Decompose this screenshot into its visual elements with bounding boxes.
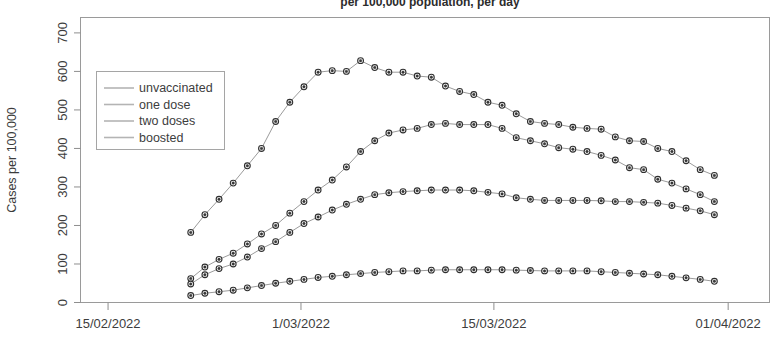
data-point-core [501, 193, 504, 196]
data-point-core [642, 201, 645, 204]
data-point-core [303, 278, 306, 281]
data-point-core [232, 252, 235, 255]
data-point-core [685, 207, 688, 210]
data-point-core [572, 270, 575, 273]
series-path [191, 123, 715, 278]
data-point-core [402, 190, 405, 193]
data-point-core [260, 233, 263, 236]
data-point-core [359, 150, 362, 153]
data-point-core [359, 59, 362, 62]
data-point-core [232, 263, 235, 266]
data-point-core [373, 271, 376, 274]
data-point-core [204, 274, 207, 277]
data-point-core [529, 269, 532, 272]
data-point-core [246, 165, 249, 168]
data-point-core [657, 274, 660, 277]
data-point-core [402, 270, 405, 273]
data-point-core [671, 150, 674, 153]
data-point-core [458, 123, 461, 126]
data-point-core [444, 85, 447, 88]
data-point-core [529, 198, 532, 201]
data-point-core [303, 222, 306, 225]
data-point-core [515, 136, 518, 139]
data-point-core [289, 280, 292, 283]
data-point-core [713, 280, 716, 283]
y-tick-label: 700 [55, 22, 70, 44]
data-point-core [699, 278, 702, 281]
data-point-core [487, 191, 490, 194]
data-point-core [345, 70, 348, 73]
data-point-core [218, 258, 221, 261]
data-point-core [204, 266, 207, 269]
data-point-core [260, 147, 263, 150]
series-unvaccinated [188, 58, 717, 236]
data-point-core [487, 269, 490, 272]
data-point-core [458, 269, 461, 272]
series-path [191, 61, 715, 233]
legend-label-two-doses: two doses [139, 114, 195, 128]
y-tick-label: 600 [55, 61, 70, 83]
data-point-core [614, 271, 617, 274]
legend-label-one-dose: one dose [139, 98, 190, 112]
data-point-core [543, 143, 546, 146]
data-point-core [260, 284, 263, 287]
legend-label-unvaccinated: unvaccinated [139, 81, 213, 95]
data-point-core [289, 101, 292, 104]
data-point-core [218, 267, 221, 270]
data-point-core [713, 200, 716, 203]
y-tick-label: 500 [55, 99, 70, 121]
data-point-core [572, 148, 575, 151]
data-point-core [473, 93, 476, 96]
data-point-core [543, 199, 546, 202]
chart-title: per 100,000 population, per day [340, 0, 520, 9]
x-axis-ticks: 15/02/20221/03/202215/03/202201/04/2022 [76, 303, 761, 332]
data-point-core [189, 294, 192, 297]
series-two-doses [188, 187, 717, 287]
data-point-core [388, 71, 391, 74]
data-point-core [473, 190, 476, 193]
data-point-core [628, 272, 631, 275]
data-point-core [444, 122, 447, 125]
y-tick-label: 400 [55, 138, 70, 160]
data-point-core [473, 269, 476, 272]
data-point-core [557, 123, 560, 126]
data-point-core [246, 243, 249, 246]
data-point-core [303, 200, 306, 203]
data-point-core [642, 168, 645, 171]
data-point-core [628, 200, 631, 203]
data-point-core [458, 90, 461, 93]
data-point-core [515, 269, 518, 272]
data-point-core [586, 199, 589, 202]
data-point-core [614, 136, 617, 139]
data-point-core [430, 269, 433, 272]
plot-frame [81, 18, 770, 303]
data-point-core [331, 209, 334, 212]
data-point-core [487, 101, 490, 104]
data-point-core [657, 147, 660, 150]
data-point-core [671, 182, 674, 185]
data-point-core [685, 277, 688, 280]
data-point-core [671, 275, 674, 278]
data-point-core [657, 178, 660, 181]
data-point-core [685, 160, 688, 163]
data-point-core [444, 189, 447, 192]
data-point-core [317, 71, 320, 74]
data-point-core [289, 212, 292, 215]
data-point-core [543, 270, 546, 273]
data-point-core [331, 69, 334, 72]
data-point-core [671, 204, 674, 207]
data-point-core [359, 198, 362, 201]
data-point-core [572, 199, 575, 202]
data-point-core [373, 139, 376, 142]
data-point-core [204, 292, 207, 295]
data-point-core [515, 113, 518, 116]
data-point-core [473, 123, 476, 126]
y-tick-label: 100 [55, 253, 70, 275]
y-tick-label: 300 [55, 176, 70, 198]
legend: unvaccinatedone dosetwo dosesboosted [97, 72, 225, 150]
data-point-core [430, 76, 433, 79]
data-point-core [388, 270, 391, 273]
data-point-core [444, 269, 447, 272]
y-axis-label: Cases per 100,000 [5, 107, 19, 213]
data-point-core [685, 188, 688, 191]
